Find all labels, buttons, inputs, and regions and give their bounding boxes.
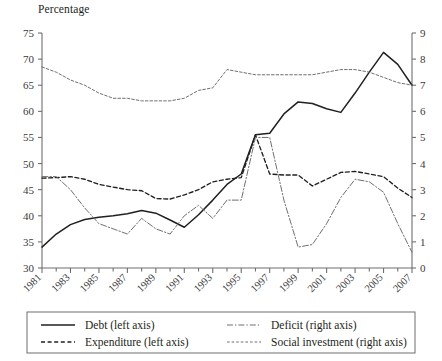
x-axis-tick-label: 1989 <box>135 272 158 295</box>
right-axis-tick-label: 9 <box>420 27 426 39</box>
y-axis-title: Percentage <box>38 3 89 15</box>
legend-item-deficit: Deficit (right axis) <box>227 319 357 332</box>
axes-group <box>42 33 412 268</box>
x-axis-tick-label: 1987 <box>106 272 129 295</box>
right-axis-tick-label: 0 <box>420 262 426 274</box>
right-axis-tick-label: 7 <box>420 79 426 91</box>
legend-item-expenditure: Expenditure (left axis) <box>41 336 189 349</box>
x-axis-tick-label: 1999 <box>277 272 300 295</box>
x-axis-tick-label: 1991 <box>163 272 186 295</box>
data-series-group <box>42 52 412 252</box>
series-line-social <box>42 67 412 101</box>
x-axis-ticks: 1981198319851987198919911993199519971999… <box>21 268 414 294</box>
right-axis-tick-label: 8 <box>420 53 426 65</box>
right-axis-tick-label: 6 <box>420 105 426 117</box>
chart-figure: Percentage 30354045505560657075 01234567… <box>0 0 442 361</box>
left-axis-tick-label: 45 <box>23 184 35 196</box>
right-axis-ticks: 0123456789 <box>412 27 426 274</box>
series-line-deficit <box>42 137 412 252</box>
series-line-debt <box>42 52 412 247</box>
left-axis-tick-label: 30 <box>23 262 35 274</box>
x-axis-tick-label: 2001 <box>305 272 328 295</box>
legend-item-debt: Debt (left axis) <box>41 319 155 332</box>
x-axis-tick-label: 2005 <box>362 272 385 295</box>
x-axis-tick-label: 1985 <box>78 272 101 295</box>
legend-label-debt: Debt (left axis) <box>85 319 155 332</box>
x-axis-tick-label: 1983 <box>49 272 72 295</box>
legend-label-social_investment: Social investment (right axis) <box>271 336 407 349</box>
x-axis-tick-label: 2003 <box>334 272 357 295</box>
line-chart-plot: 30354045505560657075 0123456789 19811983… <box>0 0 442 361</box>
left-axis-tick-label: 75 <box>23 27 35 39</box>
left-axis-tick-label: 35 <box>23 236 35 248</box>
right-axis-tick-label: 1 <box>420 236 426 248</box>
x-axis-tick-label: 1995 <box>220 272 243 295</box>
right-axis-tick-label: 2 <box>420 210 426 222</box>
right-axis-tick-label: 4 <box>420 158 426 170</box>
x-axis-tick-label: 2007 <box>391 272 414 295</box>
legend-label-deficit: Deficit (right axis) <box>271 319 357 332</box>
left-axis-ticks: 30354045505560657075 <box>23 27 42 274</box>
left-axis-tick-label: 40 <box>23 210 35 222</box>
x-axis-tick-label: 1997 <box>248 272 271 295</box>
left-axis-tick-label: 70 <box>23 53 35 65</box>
right-axis-tick-label: 3 <box>420 184 426 196</box>
right-axis-tick-label: 5 <box>420 131 426 143</box>
chart-legend: Debt (left axis)Deficit (right axis)Expe… <box>27 312 415 353</box>
x-axis-tick-label: 1993 <box>192 272 215 295</box>
left-axis-tick-label: 60 <box>23 105 35 117</box>
left-axis-tick-label: 50 <box>23 158 35 170</box>
x-axis-tick-label: 1981 <box>21 272 44 295</box>
left-axis-tick-label: 65 <box>23 79 35 91</box>
series-line-expenditure <box>42 135 412 199</box>
legend-item-social_investment: Social investment (right axis) <box>227 336 407 349</box>
left-axis-tick-label: 55 <box>23 131 35 143</box>
legend-label-expenditure: Expenditure (left axis) <box>85 336 189 349</box>
